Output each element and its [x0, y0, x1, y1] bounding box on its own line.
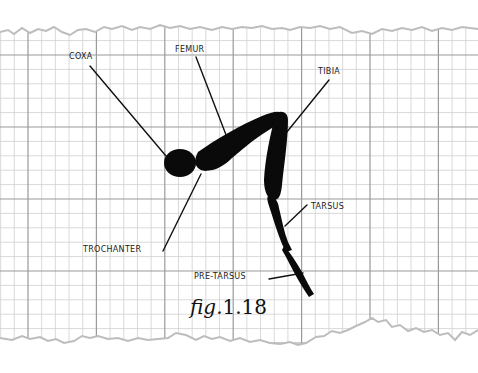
label-trochanter: TROCHANTER [83, 246, 141, 254]
label-femur: FEMUR [175, 46, 204, 54]
label-coxa: COXA [69, 53, 93, 61]
insect-leg-diagram: COXA FEMUR TIBIA TARSUS TROCHANTER PRE-T… [0, 0, 478, 373]
caption-number: 1.18 [223, 295, 268, 319]
figure-caption: fig.1.18 [190, 297, 267, 317]
caption-prefix: fig. [190, 295, 223, 319]
label-tarsus: TARSUS [311, 203, 344, 211]
coxa-segment [164, 149, 196, 177]
label-pre-tarsus: PRE-TARSUS [194, 273, 246, 281]
label-tibia: TIBIA [318, 68, 340, 76]
